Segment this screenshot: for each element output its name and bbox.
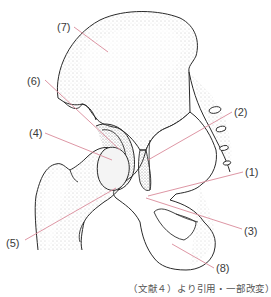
hip-anatomy-illustration [0, 0, 271, 297]
label-3: (3) [244, 225, 257, 237]
source-caption: （文献４）より引用・一部改変） [128, 281, 271, 295]
femur [35, 147, 129, 250]
label-8: (8) [216, 262, 229, 274]
label-1: (1) [245, 166, 258, 178]
label-7: (7) [57, 21, 70, 33]
label-2: (2) [234, 106, 247, 118]
label-6: (6) [27, 75, 40, 87]
label-5: (5) [6, 237, 19, 249]
label-4: (4) [29, 127, 42, 139]
femoral-head [97, 147, 129, 190]
